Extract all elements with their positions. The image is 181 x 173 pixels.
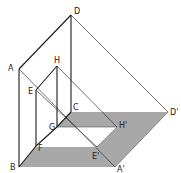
label-D-prime: D' — [170, 108, 178, 117]
label-H-prime: H' — [119, 121, 127, 130]
label-E-prime: E' — [92, 152, 99, 161]
edge-E-H — [36, 66, 57, 90]
edge-A-D — [19, 15, 71, 69]
label-C: C — [73, 103, 79, 112]
label-A-prime: A' — [117, 165, 125, 173]
label-E: E — [28, 87, 33, 96]
label-H: H — [54, 56, 60, 65]
label-F: F — [38, 144, 43, 153]
light-ray-D-Dprime — [71, 15, 168, 112]
label-B: B — [10, 163, 16, 172]
label-D: D — [74, 7, 80, 16]
label-G: G — [49, 123, 55, 132]
label-A: A — [8, 64, 14, 73]
shadow-construction-diagram: D A H E C G H' D' F E' B A' — [0, 0, 181, 173]
